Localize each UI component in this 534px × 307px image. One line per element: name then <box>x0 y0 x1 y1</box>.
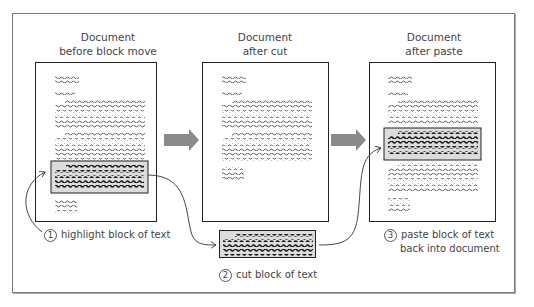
doc3-text <box>384 76 481 211</box>
doc1-text <box>51 76 148 213</box>
step-1-caption: 1highlight block of text <box>44 228 170 242</box>
step-label: paste block of text <box>401 229 494 240</box>
clipboard-to-paste-arrow <box>319 148 381 245</box>
step-label: back into document <box>384 242 500 255</box>
step-number-badge: 3 <box>384 229 397 242</box>
step-2-caption: 2cut block of text <box>219 268 317 282</box>
step-number-badge: 1 <box>44 229 57 242</box>
step-label: highlight block of text <box>61 229 170 240</box>
step1-curve-arrow <box>26 172 45 232</box>
step-label: cut block of text <box>236 269 317 280</box>
step-number-badge: 2 <box>219 269 232 282</box>
step-3-caption: 3paste block of text back into document <box>384 228 500 255</box>
cut-block-text <box>223 234 313 256</box>
arrow-right-icon <box>164 129 199 151</box>
arrow-right-icon <box>331 129 366 151</box>
diagram-graphics <box>0 0 534 307</box>
doc2-text <box>222 76 312 180</box>
